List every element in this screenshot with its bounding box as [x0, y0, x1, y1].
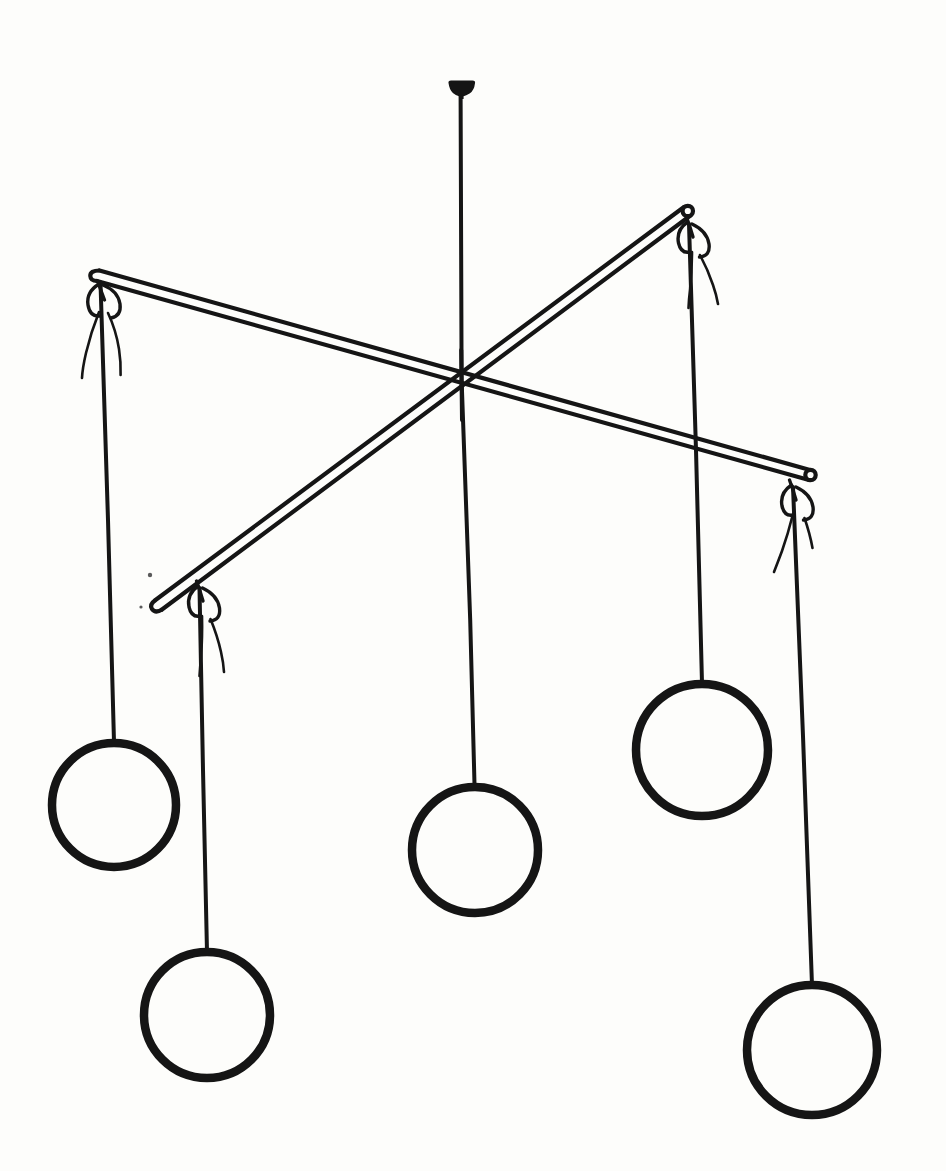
- figure-canvas: Hanging mobile with two crossed rods and…: [0, 0, 946, 1171]
- paper-speck: [139, 605, 142, 608]
- central-string-overdraw: [461, 350, 462, 420]
- paper-speck: [148, 573, 152, 577]
- mobile-line-drawing: Hanging mobile with two crossed rods and…: [0, 0, 946, 1171]
- rod-a-right-eye-icon: [805, 470, 815, 480]
- rod-b-top-eye-icon: [683, 206, 693, 216]
- paper-background: [0, 0, 946, 1171]
- central-string-overlay: [461, 350, 462, 420]
